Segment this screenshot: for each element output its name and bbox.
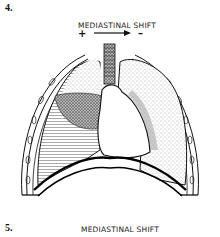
chest-illustration <box>0 0 220 237</box>
shift-arrow-icon <box>94 30 131 36</box>
figure-5-number: 5. <box>5 222 13 233</box>
figure-5-caption: MEDIASTINAL SHIFT <box>81 225 159 234</box>
